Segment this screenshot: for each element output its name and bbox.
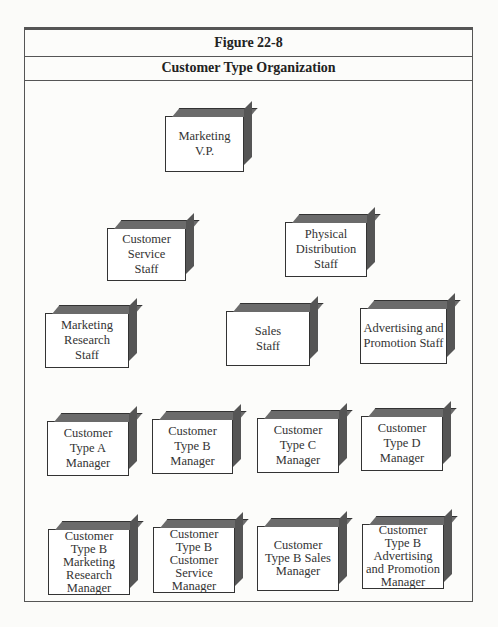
figure-number: Figure 22-8 (25, 30, 472, 57)
node-b-sales-manager: Customer Type B Sales Manager (257, 526, 339, 591)
node-b-customer-service-manager: Customer Type B Customer Service Manager (153, 527, 235, 593)
node-b-marketing-research-manager: Customer Type B Marketing Research Manag… (48, 529, 130, 595)
node-marketing-research-staff: Marketing Research Staff (45, 313, 129, 368)
node-advertising-promotion-staff: Advertising and Promotion Staff (360, 308, 447, 364)
node-marketing-vp: Marketing V.P. (165, 116, 244, 172)
node-sales-staff: Sales Staff (226, 311, 310, 366)
node-physical-distribution-staff: Physical Distribution Staff (285, 222, 367, 277)
node-type-c-manager: Customer Type C Manager (257, 418, 339, 473)
node-type-a-manager: Customer Type A Manager (47, 421, 129, 476)
node-b-advertising-promotion-manager: Customer Type B Advertising and Promotio… (362, 524, 444, 589)
node-type-d-manager: Customer Type D Manager (361, 416, 443, 471)
figure-title: Customer Type Organization (25, 56, 472, 81)
node-type-b-manager: Customer Type B Manager (152, 419, 233, 474)
node-customer-service-staff: Customer Service Staff (107, 228, 186, 281)
